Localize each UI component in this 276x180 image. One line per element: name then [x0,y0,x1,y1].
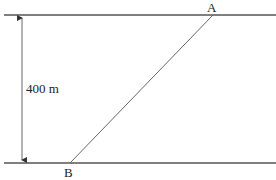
point-a-label: A [207,0,217,15]
path-line-b-to-a [70,15,213,163]
point-b-label: B [64,165,73,180]
river-crossing-diagram: 400 m A B [0,0,276,180]
width-label: 400 m [26,81,59,96]
